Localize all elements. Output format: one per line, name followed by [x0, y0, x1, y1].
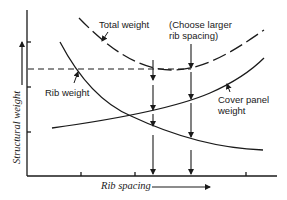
choose-larger-label-line2: rib spacing)	[169, 30, 218, 41]
cover-panel-label-line2: weight	[217, 105, 246, 116]
rib-weight-pointer	[74, 72, 78, 83]
y-axis-label: Structural weight	[11, 90, 22, 164]
choose-larger-label-line1: (Choose larger	[169, 19, 232, 30]
x-axis-label: Rib spacing	[100, 180, 151, 191]
cover-panel-pointer	[227, 84, 230, 92]
structural-weight-diagram: Structural weight Rib spacing Total weig…	[0, 0, 287, 200]
cover-panel-label-line1: Cover panel	[218, 94, 269, 105]
rib-weight-label: Rib weight	[45, 87, 90, 98]
total-weight-label: Total weight	[99, 19, 150, 30]
total-weight-pointer	[102, 32, 108, 41]
